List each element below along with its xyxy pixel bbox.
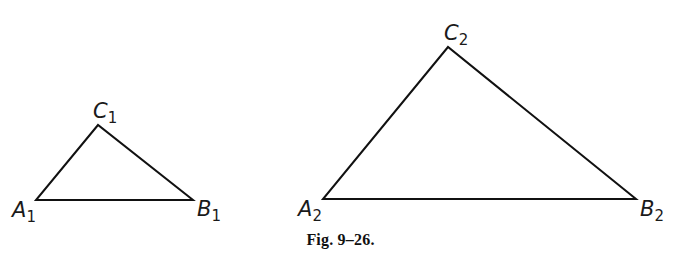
vertex-label-b1: B1 <box>197 197 221 225</box>
vertex-label-a2: A2 <box>296 197 322 225</box>
vertex-label-c1: C1 <box>93 99 117 127</box>
triangles-diagram: A1 B1 C1 A2 B2 C2 <box>0 0 681 264</box>
triangle-2: A2 B2 C2 <box>296 21 664 225</box>
triangle-1-outline <box>36 125 193 200</box>
vertex-label-b2: B2 <box>640 197 664 225</box>
triangle-2-outline <box>323 47 636 199</box>
vertex-label-c2: C2 <box>444 21 468 49</box>
vertex-label-a1: A1 <box>10 198 36 226</box>
figure-caption: Fig. 9–26. <box>0 231 681 249</box>
similar-triangles-figure: A1 B1 C1 A2 B2 C2 Fig. 9–26. <box>0 0 681 264</box>
triangle-1: A1 B1 C1 <box>10 99 221 226</box>
